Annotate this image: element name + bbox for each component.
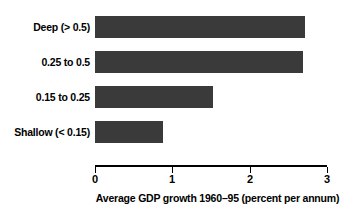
- x-axis-title: Average GDP growth 1960–95 (percent per …: [0, 192, 343, 204]
- category-label-025-05: 0.25 to 0.5: [41, 56, 90, 68]
- bar-015-025: [95, 86, 213, 108]
- bar-chart: Deep (> 0.5) 0.25 to 0.5 0.15 to 0.25 Sh…: [0, 0, 343, 220]
- category-label-deep: Deep (> 0.5): [33, 21, 90, 33]
- bar-shallow: [95, 121, 163, 143]
- x-axis-line: [95, 165, 327, 167]
- category-label-015-025: 0.15 to 0.25: [36, 91, 90, 103]
- bar-025-05: [95, 51, 303, 73]
- x-tick-label-1: 1: [160, 173, 184, 185]
- bar-deep: [95, 16, 305, 38]
- x-tick-label-2: 2: [238, 173, 262, 185]
- category-label-shallow: Shallow (< 0.15): [14, 126, 90, 138]
- x-tick-label-0: 0: [83, 173, 107, 185]
- x-tick-label-3: 3: [315, 173, 339, 185]
